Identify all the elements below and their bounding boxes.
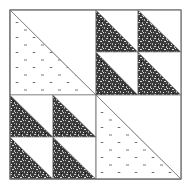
quilt-block: [0, 0, 193, 185]
quadrant-top-right: [96, 10, 181, 95]
quadrant-bottom-left: [10, 95, 96, 179]
quadrant-bottom-right: [96, 95, 181, 179]
quadrant-top-left: [10, 10, 96, 95]
